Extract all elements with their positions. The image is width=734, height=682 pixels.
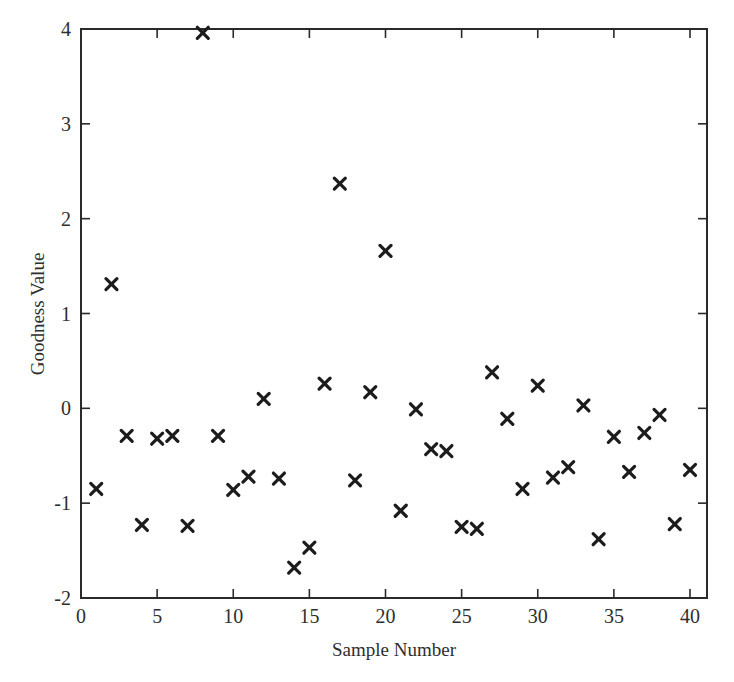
x-marker-point xyxy=(547,472,558,483)
x-marker-point xyxy=(608,431,619,442)
x-marker-point xyxy=(152,433,163,444)
x-marker-point xyxy=(167,430,178,441)
x-marker-point xyxy=(669,519,680,530)
x-marker-point xyxy=(456,521,467,532)
figure-caption-cropped xyxy=(0,674,734,682)
x-marker-point xyxy=(136,519,147,530)
x-tick-label: 20 xyxy=(376,605,396,627)
y-tick-label: 2 xyxy=(61,208,71,230)
x-marker-point xyxy=(121,430,132,441)
x-marker-point xyxy=(578,400,589,411)
x-axis-label: Sample Number xyxy=(332,639,457,660)
x-tick-label: 35 xyxy=(604,605,624,627)
x-marker-point xyxy=(624,466,635,477)
x-marker-point xyxy=(319,378,330,389)
x-marker-point xyxy=(289,562,300,573)
y-tick-label: 0 xyxy=(61,397,71,419)
x-marker-point xyxy=(365,387,376,398)
x-marker-point xyxy=(654,409,665,420)
x-marker-point xyxy=(471,523,482,534)
x-marker-point xyxy=(228,484,239,495)
x-marker-point xyxy=(106,279,117,290)
x-tick-label: 5 xyxy=(152,605,162,627)
y-axis-label: Goodness Value xyxy=(27,253,48,376)
x-marker-point xyxy=(685,464,696,475)
x-marker-point xyxy=(563,462,574,473)
x-tick-label: 10 xyxy=(223,605,243,627)
y-tick-label: -1 xyxy=(54,492,71,514)
data-series xyxy=(91,27,696,573)
x-tick-label: 15 xyxy=(299,605,319,627)
plot-border xyxy=(81,29,707,598)
y-tick-label: 1 xyxy=(61,303,71,325)
x-tick-label: 25 xyxy=(452,605,472,627)
x-marker-point xyxy=(441,446,452,457)
x-marker-point xyxy=(593,534,604,545)
x-marker-point xyxy=(380,245,391,256)
x-marker-point xyxy=(243,471,254,482)
x-marker-point xyxy=(304,542,315,553)
scatter-chart: 0510152025303540 -2-101234 Sample Number… xyxy=(0,0,734,682)
plot-area xyxy=(81,29,707,598)
x-marker-point xyxy=(213,430,224,441)
x-marker-point xyxy=(395,505,406,516)
x-marker-point xyxy=(426,444,437,455)
x-marker-point xyxy=(639,427,650,438)
x-axis: 0510152025303540 xyxy=(76,29,700,627)
x-marker-point xyxy=(517,483,528,494)
x-marker-point xyxy=(91,483,102,494)
x-marker-point xyxy=(334,178,345,189)
y-tick-label: -2 xyxy=(54,587,71,609)
y-tick-label: 4 xyxy=(61,18,71,40)
x-marker-point xyxy=(350,475,361,486)
x-marker-point xyxy=(410,404,421,415)
x-marker-point xyxy=(502,413,513,424)
x-marker-point xyxy=(487,367,498,378)
x-marker-point xyxy=(258,393,269,404)
x-tick-label: 40 xyxy=(680,605,700,627)
x-tick-label: 30 xyxy=(528,605,548,627)
x-marker-point xyxy=(273,473,284,484)
chart-canvas: 0510152025303540 -2-101234 Sample Number… xyxy=(0,0,734,682)
x-marker-point xyxy=(532,380,543,391)
y-axis: -2-101234 xyxy=(54,18,707,609)
y-tick-label: 3 xyxy=(61,113,71,135)
x-marker-point xyxy=(182,520,193,531)
x-tick-label: 0 xyxy=(76,605,86,627)
